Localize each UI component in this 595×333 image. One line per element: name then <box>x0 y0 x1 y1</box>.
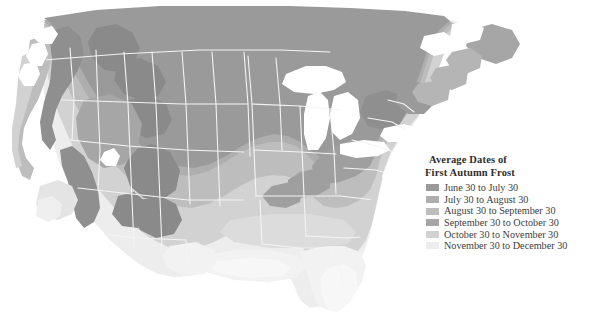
legend-item-june-july[interactable]: June 30 to July 30 <box>425 182 595 194</box>
legend-item-november-december[interactable]: November 30 to December 30 <box>425 240 595 252</box>
legend-label-november-december: November 30 to December 30 <box>444 240 567 252</box>
legend-swatch-july-august <box>426 196 439 203</box>
legend-title: Average Dates of First Autumn Frost <box>429 154 595 179</box>
legend-label-september-october: September 30 to October 30 <box>444 217 559 229</box>
legend-items: June 30 to July 30 July 30 to August 30 … <box>425 182 595 252</box>
legend-label-june-july: June 30 to July 30 <box>444 182 518 194</box>
legend-swatch-november-december <box>426 242 439 249</box>
legend-title-line-2: First Autumn Frost <box>425 167 595 180</box>
legend-swatch-june-july <box>426 184 439 191</box>
legend-swatch-august-september <box>426 208 439 215</box>
legend-swatch-october-november <box>426 231 439 238</box>
map-legend: Average Dates of First Autumn Frost June… <box>425 154 595 252</box>
legend-item-october-november[interactable]: October 30 to November 30 <box>425 229 595 241</box>
legend-item-september-october[interactable]: September 30 to October 30 <box>425 217 595 229</box>
legend-swatch-september-october <box>426 219 439 226</box>
legend-item-july-august[interactable]: July 30 to August 30 <box>425 194 595 206</box>
legend-item-august-september[interactable]: August 30 to September 30 <box>425 205 595 217</box>
legend-label-july-august: July 30 to August 30 <box>444 194 528 206</box>
legend-label-october-november: October 30 to November 30 <box>444 229 558 241</box>
legend-label-august-september: August 30 to September 30 <box>444 205 556 217</box>
legend-title-line-1: Average Dates of <box>429 154 595 167</box>
map-page: Average Dates of First Autumn Frost June… <box>0 0 595 333</box>
